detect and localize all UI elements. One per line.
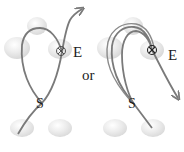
- sphere-cluster: [97, 17, 165, 137]
- sphere-top: [27, 17, 47, 35]
- or-separator: or: [82, 68, 95, 83]
- sphere-bottom-right: [48, 119, 72, 137]
- start-label-left: S: [36, 97, 44, 111]
- end-label-right: E: [168, 48, 177, 63]
- end-label-left: E: [73, 45, 82, 60]
- sphere-left: [97, 37, 123, 59]
- sphere-left: [4, 37, 30, 59]
- sphere-bottom-right: [141, 119, 165, 137]
- sphere-bottom-left: [103, 119, 127, 137]
- left-panel: [4, 9, 82, 137]
- sphere-right: [48, 39, 72, 59]
- sphere-cluster: [4, 17, 72, 137]
- start-label-right: S: [128, 97, 136, 111]
- right-panel: [97, 17, 178, 137]
